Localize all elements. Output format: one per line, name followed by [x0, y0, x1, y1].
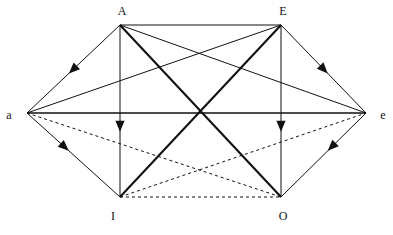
edge-a-I	[27, 113, 120, 197]
edges-layer	[27, 25, 366, 197]
vertex-label-A: A	[118, 5, 127, 17]
vertex-label-O: O	[279, 210, 288, 222]
vertex-label-a: a	[6, 109, 11, 121]
edge-A-I-arrowhead	[115, 121, 124, 132]
graph-svg	[0, 0, 393, 235]
arrowheads-layer	[58, 62, 339, 151]
edge-e-O	[281, 113, 366, 197]
edge-E-O-arrowhead	[276, 121, 285, 132]
diagram-canvas: AEaeIO	[0, 0, 393, 235]
vertex-label-e: e	[380, 109, 385, 121]
vertex-label-I: I	[111, 210, 115, 222]
vertex-label-E: E	[279, 5, 286, 17]
